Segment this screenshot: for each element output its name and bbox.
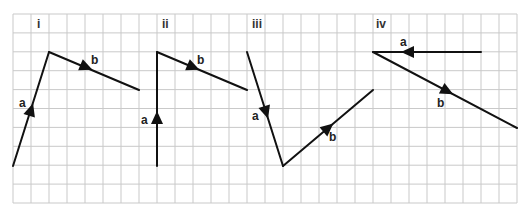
vector-label-b: b [329, 130, 336, 144]
part-label-iii: iii [252, 17, 262, 31]
part-label-ii: ii [162, 17, 169, 31]
labels: iabiiabiiiabivab [19, 17, 444, 144]
vector-label-a: a [252, 109, 259, 123]
vector-label-b: b [437, 96, 444, 110]
vector-label-a: a [400, 35, 407, 49]
vector-label-a: a [141, 113, 148, 127]
vector-iii-b [283, 90, 373, 166]
vector-label-a: a [19, 96, 26, 110]
arrowhead-icon [151, 111, 163, 124]
arrowhead-icon [258, 104, 273, 120]
part-label-iv: iv [376, 17, 386, 31]
vector-label-b: b [91, 53, 98, 67]
vector-diagram: iabiiabiiiabivab [0, 0, 529, 214]
vector-label-b: b [197, 53, 204, 67]
part-label-i: i [37, 17, 40, 31]
